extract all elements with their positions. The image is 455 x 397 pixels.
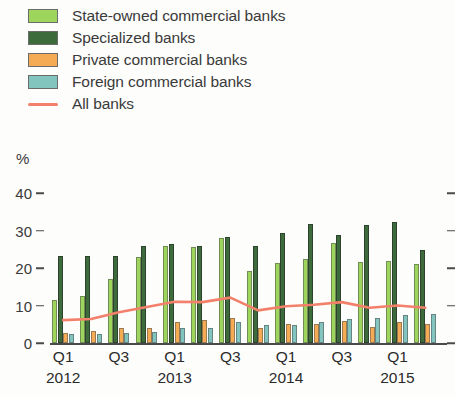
chart-legend: State-owned commercial banksSpecialized … bbox=[28, 6, 285, 114]
legend-item[interactable]: Private commercial banks bbox=[28, 50, 285, 70]
legend-item[interactable]: Specialized banks bbox=[28, 28, 285, 48]
x-axis-quarter-label: Q3 bbox=[109, 348, 130, 366]
legend-item[interactable]: All banks bbox=[28, 94, 285, 114]
x-axis-year-label: 2015 bbox=[380, 369, 414, 387]
chart-plot-area: 010203040 Q12012Q3Q12013Q3Q12014Q3Q12015 bbox=[0, 140, 455, 397]
legend-color-swatch-icon bbox=[28, 9, 58, 23]
legend-line-swatch-icon bbox=[28, 97, 58, 111]
legend-color-swatch-icon bbox=[28, 53, 58, 67]
legend-item[interactable]: State-owned commercial banks bbox=[28, 6, 285, 26]
legend-color-swatch-icon bbox=[28, 31, 58, 45]
x-axis-quarter-label: Q3 bbox=[331, 348, 352, 366]
legend-color-swatch-icon bbox=[28, 75, 58, 89]
legend-item-label: Foreign commercial banks bbox=[72, 73, 251, 91]
x-axis-year-label: 2012 bbox=[46, 369, 80, 387]
legend-item-label: Private commercial banks bbox=[72, 51, 247, 69]
x-axis-quarter-label: Q1 bbox=[276, 348, 297, 366]
legend-item-label: All banks bbox=[72, 95, 134, 113]
x-axis-quarter-label: Q1 bbox=[387, 348, 408, 366]
legend-item-label: State-owned commercial banks bbox=[72, 7, 285, 25]
x-axis-quarter-label: Q1 bbox=[53, 348, 74, 366]
x-axis-year-label: 2014 bbox=[269, 369, 303, 387]
legend-item-label: Specialized banks bbox=[72, 29, 195, 47]
x-axis-quarter-label: Q1 bbox=[164, 348, 185, 366]
x-axis-year-label: 2013 bbox=[157, 369, 191, 387]
x-axis-quarter-label: Q3 bbox=[220, 348, 241, 366]
x-axis-labels: Q12012Q3Q12013Q3Q12014Q3Q12015 bbox=[0, 140, 455, 397]
legend-item[interactable]: Foreign commercial banks bbox=[28, 72, 285, 92]
